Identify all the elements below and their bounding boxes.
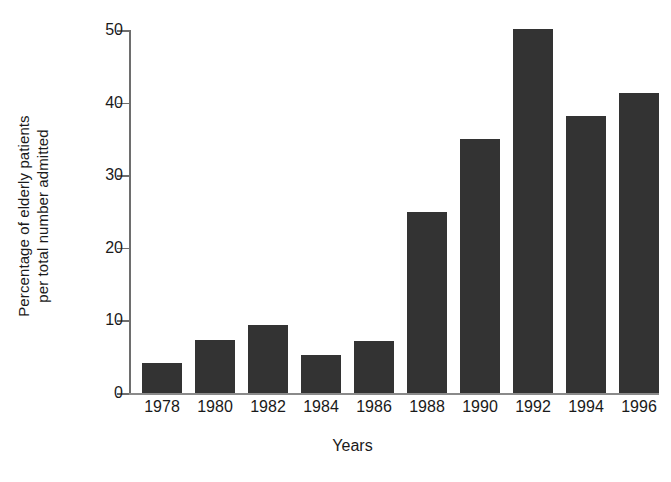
y-axis-title-line-1: Percentage of elderly patients [14,115,34,316]
y-tick-label: 10 [105,311,123,329]
y-tick-label: 30 [105,166,123,184]
bar [566,116,606,393]
y-tick-label: 50 [105,21,123,39]
x-tick-label: 1984 [303,398,339,416]
x-tick-label: 1992 [515,398,551,416]
bar [195,340,235,393]
x-axis-line [117,393,659,395]
plot-area: 01020304050 [129,30,659,393]
x-tick-label: 1980 [197,398,233,416]
x-tick-label: 1988 [409,398,445,416]
x-tick-label: 1996 [621,398,657,416]
bar [407,212,447,394]
x-tick-label: 1982 [250,398,286,416]
bar [513,29,553,393]
y-axis-title: Percentage of elderly patients per total… [10,39,56,393]
x-tick-label: 1986 [356,398,392,416]
x-tick-label: 1978 [144,398,180,416]
x-axis-title: Years [0,437,671,455]
y-tick-label: 40 [105,94,123,112]
bar-series [129,30,659,393]
bar [619,93,659,393]
x-tick-label: 1990 [462,398,498,416]
x-axis-title-text: Years [332,437,372,455]
x-tick-label: 1994 [568,398,604,416]
y-axis-title-line-2: per total number admitted [33,129,53,302]
bar [248,325,288,393]
bar [354,341,394,393]
bar-chart: Percentage of elderly patients per total… [0,0,671,482]
bar [301,355,341,393]
x-axis-tick-labels: 1978198019821984198619881990199219941996 [129,398,659,422]
bar [142,363,182,393]
y-tick-label: 20 [105,239,123,257]
bar [460,139,500,393]
y-tick-label: 0 [114,384,123,402]
